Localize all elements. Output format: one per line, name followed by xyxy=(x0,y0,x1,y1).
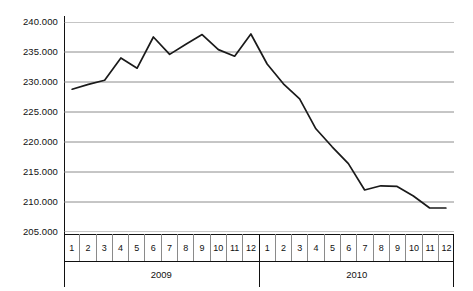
x-axis-month-tick: 10 xyxy=(210,234,226,261)
x-axis-month-tick: 7 xyxy=(356,234,372,261)
x-axis-month-label: 10 xyxy=(213,243,223,253)
x-axis-month-tick: 1 xyxy=(259,234,275,261)
x-axis-month-label: 8 xyxy=(183,243,188,253)
x-axis-month-label: 9 xyxy=(395,243,400,253)
x-axis-month-label: 12 xyxy=(246,243,256,253)
year-label-2010: 2010 xyxy=(259,261,455,287)
x-axis-month-label: 1 xyxy=(265,243,270,253)
x-axis-month-tick: 5 xyxy=(324,234,340,261)
y-axis-tick-label: 215.000 xyxy=(23,167,58,177)
line-chart: 240.000 235.000 230.000 225.000 220.000 … xyxy=(0,0,473,291)
x-axis-month-tick: 9 xyxy=(389,234,405,261)
y-axis-tick-label: 205.000 xyxy=(23,227,58,237)
x-axis-month-tick: 8 xyxy=(373,234,389,261)
x-axis-month-label: 7 xyxy=(362,243,367,253)
x-axis-month-tick: 12 xyxy=(438,234,454,261)
x-axis-month-tick: 6 xyxy=(144,234,160,261)
y-axis-tick-label: 220.000 xyxy=(23,137,58,147)
plot-svg xyxy=(64,22,454,232)
x-axis-month-tick: 2 xyxy=(275,234,291,261)
x-axis-month-tick: 2 xyxy=(79,234,95,261)
x-axis-month-label: 8 xyxy=(379,243,384,253)
x-axis-month-label: 2 xyxy=(281,243,286,253)
x-axis-month-tick: 4 xyxy=(307,234,323,261)
x-axis-month-label: 11 xyxy=(230,243,239,253)
x-axis-month-tick: 10 xyxy=(405,234,421,261)
x-axis-month-label: 4 xyxy=(314,243,319,253)
x-axis-month-tick: 5 xyxy=(128,234,144,261)
x-axis-month-label: 11 xyxy=(426,243,435,253)
x-axis-month-label: 12 xyxy=(441,243,451,253)
x-axis-month-label: 7 xyxy=(167,243,172,253)
x-axis-month-label: 3 xyxy=(297,243,302,253)
y-axis-tick-label: 230.000 xyxy=(23,77,58,87)
x-axis-month-labels: 123456789101112123456789101112 xyxy=(64,234,454,261)
x-axis-month-label: 3 xyxy=(102,243,107,253)
gridlines xyxy=(64,22,454,232)
x-axis-month-label: 1 xyxy=(69,243,74,253)
x-axis-month-tick: 8 xyxy=(177,234,193,261)
x-axis-month-tick: 3 xyxy=(96,234,112,261)
x-axis-month-tick: 4 xyxy=(112,234,128,261)
x-axis-month-label: 6 xyxy=(346,243,351,253)
x-axis-month-tick: 11 xyxy=(226,234,242,261)
x-axis-month-label: 4 xyxy=(118,243,123,253)
x-axis-right-edge xyxy=(453,234,454,287)
y-axis-labels: 240.000 235.000 230.000 225.000 220.000 … xyxy=(0,0,62,291)
year-label-2009: 2009 xyxy=(64,261,259,287)
plot-area xyxy=(64,22,454,232)
x-axis-month-tick: 7 xyxy=(161,234,177,261)
data-series-line xyxy=(72,34,446,208)
y-axis-tick-label: 235.000 xyxy=(23,47,58,57)
x-axis-month-tick: 6 xyxy=(340,234,356,261)
x-axis-month-tick: 12 xyxy=(242,234,258,261)
x-axis-month-label: 2 xyxy=(85,243,90,253)
x-axis-month-tick: 9 xyxy=(193,234,209,261)
year-label-text: 2009 xyxy=(151,269,172,280)
x-axis-month-label: 6 xyxy=(151,243,156,253)
x-axis-month-tick: 3 xyxy=(291,234,307,261)
y-axis-tick-label: 225.000 xyxy=(23,107,58,117)
y-axis-tick-label: 240.000 xyxy=(23,17,58,27)
year-label-text: 2010 xyxy=(346,269,367,280)
x-axis-month-label: 5 xyxy=(330,243,335,253)
x-axis-month-label: 9 xyxy=(200,243,205,253)
x-axis-month-tick: 1 xyxy=(64,234,79,261)
x-axis-year-labels: 2009 2010 xyxy=(64,261,454,287)
x-axis-month-label: 10 xyxy=(409,243,419,253)
x-axis-month-tick: 11 xyxy=(422,234,438,261)
x-axis-month-label: 5 xyxy=(134,243,139,253)
y-axis-tick-label: 210.000 xyxy=(23,197,58,207)
